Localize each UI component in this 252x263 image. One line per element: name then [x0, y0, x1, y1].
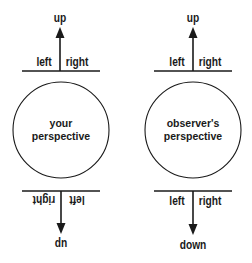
right-label: right: [66, 55, 89, 68]
bottom-orientation-your-flipped: left right up: [22, 191, 100, 251]
right-label: right: [32, 194, 55, 207]
circle-label-line1: observer's: [167, 117, 220, 129]
arrowhead-down-icon: [189, 224, 198, 235]
down-label: down: [180, 238, 207, 251]
right-label: right: [199, 194, 222, 207]
arrowhead-up-icon: [189, 27, 198, 38]
left-label: left: [169, 194, 185, 207]
up-label: up: [187, 11, 200, 24]
panel-observers-perspective: up left right observer's perspective lef…: [145, 11, 241, 251]
left-label: left: [69, 194, 85, 207]
circle-label-line2: perspective: [164, 130, 223, 142]
bottom-orientation-observer: left right down: [154, 191, 232, 251]
circle-label-line1: your: [50, 117, 73, 129]
left-label: left: [36, 55, 52, 68]
up-label: up: [55, 238, 68, 251]
right-label: right: [199, 55, 222, 68]
panel-your-perspective: up left right your perspective left righ…: [13, 11, 109, 251]
arrowhead-icon: [57, 223, 66, 234]
top-orientation-observer: up left right: [154, 11, 232, 71]
top-orientation-your: up left right: [22, 11, 100, 71]
circle-label-line2: perspective: [32, 130, 91, 142]
arrowhead-up-icon: [56, 27, 65, 38]
up-label: up: [54, 11, 67, 24]
left-label: left: [169, 55, 185, 68]
perspective-diagram: up left right your perspective left righ…: [0, 0, 252, 263]
